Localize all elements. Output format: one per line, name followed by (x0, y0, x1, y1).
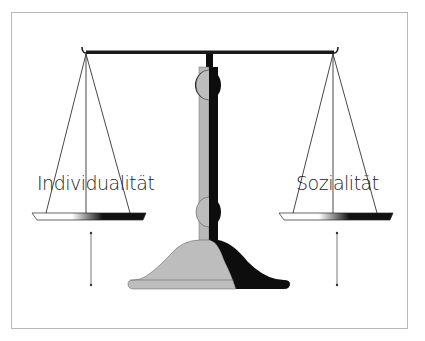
scale-column (195, 54, 221, 242)
left-scale-pan (32, 54, 146, 220)
right-vertical-arrow-icon (336, 232, 338, 286)
balance-scale-illustration (0, 0, 425, 341)
right-pan-label: Sozialität (296, 172, 379, 194)
left-vertical-arrow-icon (90, 232, 92, 286)
scale-base (128, 240, 290, 289)
scale-beam (82, 47, 338, 54)
right-scale-pan (279, 54, 393, 220)
left-pan-label: Individualität (37, 172, 154, 194)
